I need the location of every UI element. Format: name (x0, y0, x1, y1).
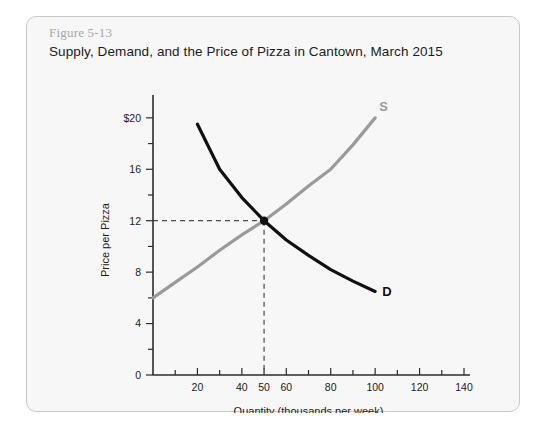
equilibrium-point (260, 217, 268, 225)
equilibrium-guide-lines (153, 221, 264, 375)
supply-curve (153, 118, 375, 298)
x-tick-label: 120 (411, 381, 429, 393)
supply-demand-chart: 0481216$20 2040506080100120140 S D Quant… (27, 69, 521, 413)
y-tick-label: 8 (135, 266, 141, 278)
y-tick-label: 16 (129, 163, 141, 175)
x-tick-label: 140 (455, 381, 473, 393)
x-tick-label: 80 (325, 381, 337, 393)
x-axis-title: Quantity (thousands per week) (234, 405, 384, 413)
y-axis-ticks: 0481216$20 (123, 112, 153, 381)
x-tick-label: 50 (258, 381, 270, 393)
demand-curve-label: D (382, 284, 391, 299)
y-tick-label: 4 (135, 317, 141, 329)
y-tick-label: 0 (135, 369, 141, 381)
chart-plot-area: 0481216$20 2040506080100120140 S D Quant… (27, 69, 521, 413)
figure-number: Figure 5-13 (49, 25, 112, 41)
y-tick-label: 12 (129, 215, 141, 227)
x-axis-ticks: 2040506080100120140 (175, 368, 473, 393)
figure-title: Supply, Demand, and the Price of Pizza i… (49, 44, 443, 59)
x-tick-label: 100 (366, 381, 384, 393)
y-tick-label: $20 (123, 112, 141, 124)
y-axis-title: Price per Pizza (99, 202, 111, 277)
x-tick-label: 40 (236, 381, 248, 393)
supply-curve-label: S (379, 99, 388, 114)
x-tick-label: 60 (280, 381, 292, 393)
figure-card: Figure 5-13 Supply, Demand, and the Pric… (26, 16, 520, 412)
x-tick-label: 20 (192, 381, 204, 393)
page-background: Figure 5-13 Supply, Demand, and the Pric… (0, 0, 546, 434)
